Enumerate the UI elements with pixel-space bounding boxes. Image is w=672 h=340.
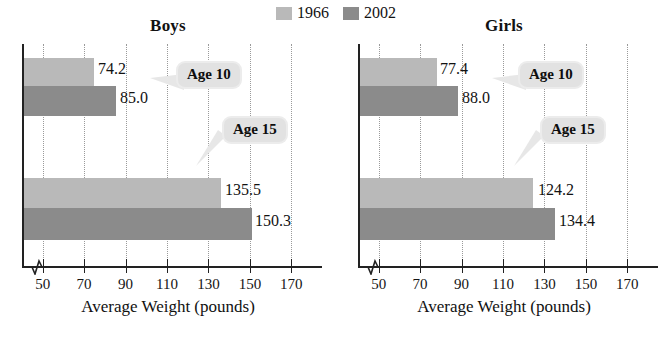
bar-boys-age10-2002 bbox=[23, 86, 116, 116]
tick-mark-90 bbox=[462, 259, 463, 273]
tick-label-150: 150 bbox=[239, 276, 262, 293]
axis-break-icon bbox=[361, 259, 383, 275]
bar-girls-age15-2002 bbox=[359, 208, 555, 240]
tick-label-130: 130 bbox=[197, 276, 220, 293]
tick-mark-70 bbox=[420, 259, 421, 273]
callout-tail-boys-age15 bbox=[196, 130, 226, 166]
chart-figure: 1966 2002 Boys 74.2 85.0 135.5 bbox=[0, 0, 672, 340]
bar-label-girls-age15-2002: 134.4 bbox=[559, 212, 595, 230]
bar-label-girls-age10-2002: 88.0 bbox=[462, 89, 490, 107]
gridline-170 bbox=[627, 44, 629, 266]
tick-mark-170 bbox=[291, 259, 292, 273]
axis-break-icon bbox=[25, 259, 47, 275]
tick-mark-130 bbox=[544, 259, 545, 273]
tick-label-70: 70 bbox=[413, 276, 428, 293]
tick-label-50: 50 bbox=[35, 276, 50, 293]
tick-label-110: 110 bbox=[156, 276, 178, 293]
tick-label-150: 150 bbox=[575, 276, 598, 293]
tick-mark-150 bbox=[250, 259, 251, 273]
bar-girls-age15-1966 bbox=[359, 178, 533, 208]
tick-mark-130 bbox=[208, 259, 209, 273]
bar-label-boys-age15-2002: 150.3 bbox=[255, 212, 291, 230]
tick-mark-110 bbox=[503, 259, 504, 273]
bar-label-boys-age15-1966: 135.5 bbox=[225, 181, 261, 199]
callout-girls-age15: Age 15 bbox=[542, 118, 604, 142]
bar-boys-age10-1966 bbox=[23, 58, 94, 86]
y-axis-line-boys bbox=[22, 44, 24, 266]
tick-label-50: 50 bbox=[371, 276, 386, 293]
tick-mark-110 bbox=[167, 259, 168, 273]
tick-label-170: 170 bbox=[280, 276, 303, 293]
bar-girls-age10-2002 bbox=[359, 86, 458, 116]
tick-label-90: 90 bbox=[454, 276, 469, 293]
x-axis-title-girls: Average Weight (pounds) bbox=[336, 297, 672, 317]
panel-title-girls: Girls bbox=[336, 16, 672, 36]
bar-label-girls-age10-1966: 77.4 bbox=[440, 60, 468, 78]
y-axis-line-girls bbox=[358, 44, 360, 266]
x-axis-title-boys: Average Weight (pounds) bbox=[0, 297, 336, 317]
x-axis-line-girls bbox=[358, 266, 658, 268]
callout-boys-age15: Age 15 bbox=[224, 118, 286, 142]
bar-label-boys-age10-2002: 85.0 bbox=[120, 89, 148, 107]
panel-boys: Boys 74.2 85.0 135.5 150.3 bbox=[0, 0, 336, 340]
tick-label-90: 90 bbox=[118, 276, 133, 293]
tick-mark-90 bbox=[126, 259, 127, 273]
tick-label-170: 170 bbox=[616, 276, 639, 293]
bar-label-boys-age10-1966: 74.2 bbox=[98, 60, 126, 78]
tick-label-110: 110 bbox=[492, 276, 514, 293]
callout-boys-age10: Age 10 bbox=[178, 63, 240, 87]
panel-title-boys: Boys bbox=[0, 16, 336, 36]
tick-mark-70 bbox=[84, 259, 85, 273]
tick-label-130: 130 bbox=[533, 276, 556, 293]
bar-girls-age10-1966 bbox=[359, 58, 437, 86]
callout-tail-girls-age15 bbox=[514, 130, 544, 166]
bar-label-girls-age15-1966: 124.2 bbox=[538, 181, 574, 199]
callout-girls-age10: Age 10 bbox=[520, 63, 582, 87]
bar-boys-age15-1966 bbox=[23, 178, 221, 208]
panel-girls: Girls 77.4 88.0 124.2 134.4 bbox=[336, 0, 672, 340]
gridline-170 bbox=[291, 44, 293, 266]
bar-boys-age15-2002 bbox=[23, 208, 252, 240]
tick-label-70: 70 bbox=[77, 276, 92, 293]
tick-mark-150 bbox=[586, 259, 587, 273]
tick-mark-170 bbox=[627, 259, 628, 273]
gridline-150 bbox=[586, 44, 588, 266]
x-axis-line-boys bbox=[22, 266, 322, 268]
